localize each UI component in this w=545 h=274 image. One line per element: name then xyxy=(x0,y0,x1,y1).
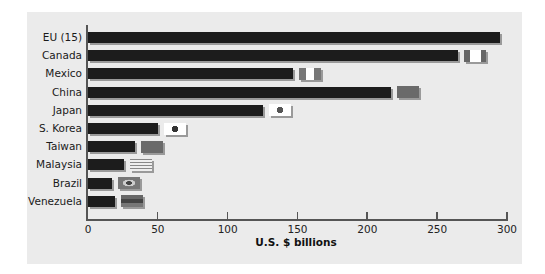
category-label: Venezuela xyxy=(28,196,82,207)
bar xyxy=(88,32,500,43)
category-label: Taiwan xyxy=(46,141,82,152)
japan-flag-icon xyxy=(269,104,291,116)
venezuela-flag-icon xyxy=(121,195,143,207)
x-tick-label: 300 xyxy=(497,223,517,235)
bar xyxy=(88,178,112,189)
bar xyxy=(88,159,124,170)
category-label: Japan xyxy=(53,105,82,116)
x-tick-label: 200 xyxy=(357,223,377,235)
x-tick-label: 250 xyxy=(427,223,447,235)
brazil-flag-icon xyxy=(118,177,140,189)
category-label: Canada xyxy=(42,50,82,61)
x-tick-mark xyxy=(227,212,229,220)
x-tick-mark xyxy=(506,212,508,220)
china-flag-icon xyxy=(397,86,419,98)
south-korea-flag-icon xyxy=(164,123,186,135)
category-label: Brazil xyxy=(53,178,82,189)
category-label: Mexico xyxy=(45,68,82,79)
bar xyxy=(88,105,263,116)
y-axis-line xyxy=(86,25,88,220)
taiwan-flag-icon xyxy=(141,141,163,153)
bar xyxy=(88,87,391,98)
bar xyxy=(88,196,115,207)
x-tick-label: 150 xyxy=(287,223,307,235)
x-tick-mark xyxy=(436,212,438,220)
bar xyxy=(88,50,458,61)
malaysia-flag-icon xyxy=(130,159,152,171)
bar xyxy=(88,68,293,79)
x-tick-mark xyxy=(297,212,299,220)
x-tick-label: 100 xyxy=(218,223,238,235)
bar xyxy=(88,141,135,152)
category-label: S. Korea xyxy=(39,123,82,134)
canada-flag-icon xyxy=(464,50,486,62)
category-label: EU (15) xyxy=(43,32,82,43)
x-axis-label: U.S. $ billions xyxy=(255,236,337,248)
x-tick-label: 50 xyxy=(151,223,164,235)
x-tick-mark xyxy=(366,212,368,220)
category-label: Malaysia xyxy=(36,159,82,170)
mexico-flag-icon xyxy=(299,68,321,80)
x-tick-mark xyxy=(157,212,159,220)
bar xyxy=(88,123,158,134)
category-label: China xyxy=(52,87,82,98)
x-tick-label: 0 xyxy=(85,223,92,235)
